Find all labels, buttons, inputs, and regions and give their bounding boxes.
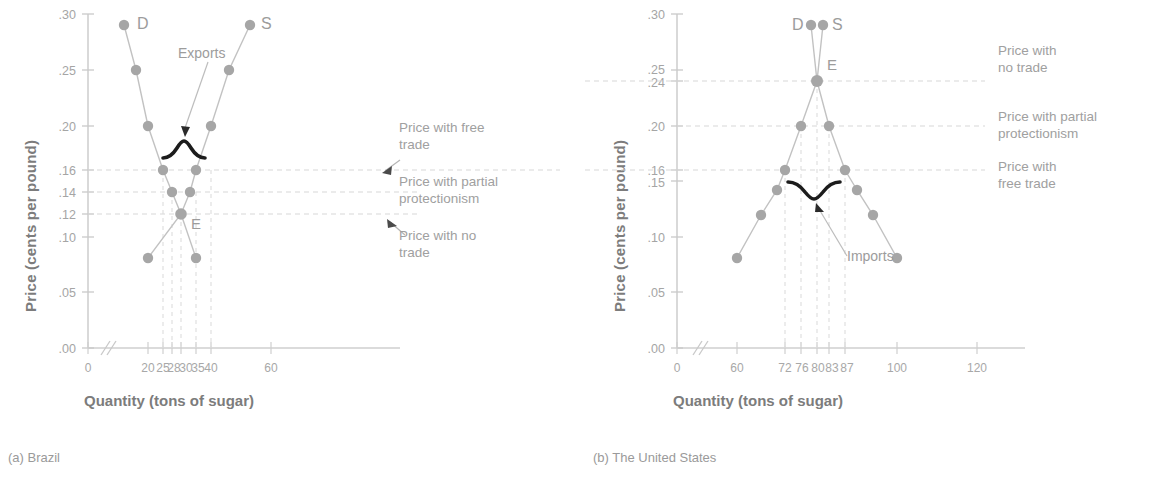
svg-text:76: 76: [795, 361, 809, 375]
brazil-exports-brace: [163, 141, 205, 158]
brazil-annotation-partial-protectionism: Price with partial protectionism: [399, 173, 498, 207]
us-annotation-free-trade-line2: free trade: [998, 175, 1057, 192]
svg-text:80: 80: [811, 361, 825, 375]
svg-text:.05: .05: [59, 286, 76, 300]
brazil-exports-arrow-icon: [181, 126, 190, 137]
us-annotation-no-trade-line1: Price with: [998, 42, 1057, 59]
svg-text:40: 40: [204, 361, 218, 375]
svg-text:.14: .14: [59, 186, 76, 200]
brazil-exports-leader: [185, 62, 208, 128]
us-imports-brace: [788, 182, 840, 199]
brazil-caption: (a) Brazil: [8, 450, 60, 465]
svg-text:.16: .16: [59, 164, 76, 178]
svg-text:100: 100: [887, 361, 907, 375]
svg-text:35: 35: [191, 361, 205, 375]
brazil-x-tick-labels: 0 20 25 28 30 35 40 60: [85, 361, 278, 375]
us-x-tick-labels: 0 60 72 76 80 83 87 100 120: [674, 361, 988, 375]
brazil-equilibrium-label: E: [191, 215, 201, 232]
us-demand-label: D: [792, 16, 804, 34]
svg-text:.30: .30: [648, 8, 665, 22]
svg-text:120: 120: [967, 361, 987, 375]
brazil-annotation-partial-line2: protectionism: [399, 190, 498, 207]
brazil-annotation-no-trade: Price with no trade: [399, 227, 476, 261]
us-equilibrium-point: [811, 75, 823, 87]
svg-text:.15: .15: [648, 176, 665, 190]
us-supply-label: S: [832, 16, 843, 34]
brazil-x-axis-title: Quantity (tons of sugar): [84, 392, 254, 409]
us-demand-curve: [811, 25, 897, 258]
svg-text:.05: .05: [648, 286, 665, 300]
svg-text:.00: .00: [59, 342, 76, 356]
brazil-y-tick-labels: .30 .25 .20 .16 .14 .12 .10 .05 .00: [59, 8, 76, 356]
brazil-annotation-partial-line1: Price with partial: [399, 173, 498, 190]
us-imports-label: Imports: [847, 248, 894, 264]
svg-text:.20: .20: [648, 120, 665, 134]
svg-text:.25: .25: [648, 63, 665, 77]
panel-united-states: Price (cents per pound) .30 .25 .24 .20 …: [585, 0, 1170, 483]
us-annotation-partial-line2: protectionism: [998, 125, 1097, 142]
us-supply-curve: [737, 25, 823, 258]
brazil-annotation-free-trade-line1: Price with free: [399, 119, 485, 136]
svg-text:.00: .00: [648, 342, 665, 356]
us-annotation-no-trade: Price with no trade: [998, 42, 1057, 76]
brazil-demand-label: D: [137, 15, 149, 33]
us-imports-leader: [819, 209, 847, 256]
svg-text:60: 60: [730, 361, 744, 375]
panel-brazil: Price (cents per pound) .30 .25 .20 .16: [0, 0, 585, 483]
brazil-exports-label: Exports: [178, 45, 225, 61]
svg-text:.12: .12: [59, 208, 76, 222]
svg-text:60: 60: [264, 361, 278, 375]
us-plot: .30 .25 .24 .20 .16 .15 .10 .05 .00 0 60…: [585, 0, 1170, 400]
brazil-annotation-no-trade-line1: Price with no: [399, 227, 476, 244]
svg-text:0: 0: [674, 361, 681, 375]
brazil-supply-label: S: [261, 15, 272, 33]
us-annotation-partial-line1: Price with partial: [998, 108, 1097, 125]
us-x-axis-title: Quantity (tons of sugar): [673, 392, 843, 409]
brazil-annotation-no-trade-line2: trade: [399, 244, 476, 261]
us-quantity-drop-lines: [785, 81, 845, 348]
svg-text:83: 83: [825, 361, 839, 375]
svg-text:.10: .10: [59, 231, 76, 245]
brazil-annotation-free-trade: Price with free trade: [399, 119, 485, 153]
us-annotation-free-trade-line1: Price with: [998, 158, 1057, 175]
us-annotation-no-trade-line2: no trade: [998, 59, 1057, 76]
svg-text:87: 87: [840, 361, 854, 375]
svg-text:20: 20: [141, 361, 155, 375]
us-annotation-free-trade: Price with free trade: [998, 158, 1057, 192]
us-annotation-partial-protectionism: Price with partial protectionism: [998, 108, 1097, 142]
us-caption: (b) The United States: [593, 450, 716, 465]
svg-text:0: 0: [85, 361, 92, 375]
us-y-tick-labels: .30 .25 .24 .20 .16 .15 .10 .05 .00: [648, 8, 665, 356]
us-equilibrium-label: E: [827, 56, 837, 73]
svg-text:.24: .24: [648, 76, 665, 90]
svg-text:72: 72: [778, 361, 792, 375]
us-price-reference-lines: [585, 81, 985, 170]
svg-text:.10: .10: [648, 231, 665, 245]
us-imports-arrow-icon: [815, 203, 824, 212]
brazil-annotation-free-trade-line2: trade: [399, 136, 485, 153]
svg-text:.25: .25: [59, 64, 76, 78]
svg-text:.20: .20: [59, 120, 76, 134]
svg-text:.30: .30: [59, 8, 76, 22]
